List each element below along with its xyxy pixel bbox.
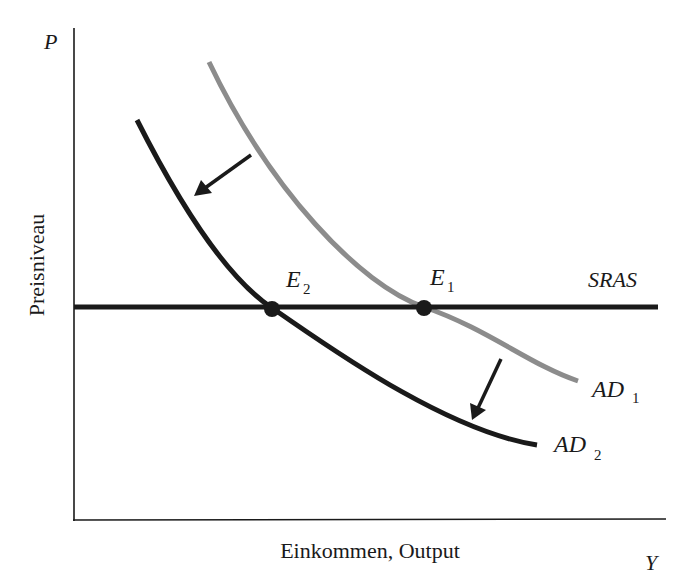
x-axis-label: Einkommen, Output <box>280 538 460 563</box>
e1-point <box>416 300 432 316</box>
x-axis-symbol: Y <box>645 550 660 575</box>
sras-label: SRAS <box>588 267 637 292</box>
ad-shift-diagram: P Preisniveau Y Einkommen, Output SRAS A… <box>0 0 697 586</box>
svg-text:AD: AD <box>552 431 586 457</box>
y-axis-symbol: P <box>43 29 57 54</box>
e1-label: E 1 <box>429 264 455 295</box>
svg-text:2: 2 <box>303 281 311 297</box>
ad2-label: AD 2 <box>552 431 602 463</box>
e2-label: E 2 <box>285 266 311 297</box>
ad1-label: AD 1 <box>590 376 640 406</box>
svg-text:2: 2 <box>594 447 602 463</box>
svg-text:AD: AD <box>590 376 624 402</box>
ad2-curve <box>137 120 537 445</box>
e2-point <box>264 301 280 317</box>
y-axis-label: Preisniveau <box>24 214 49 317</box>
svg-text:1: 1 <box>447 279 455 295</box>
shift-arrow-lower <box>470 359 501 420</box>
svg-text:E: E <box>285 266 301 292</box>
svg-text:E: E <box>429 264 445 290</box>
ad1-curve <box>209 62 578 381</box>
svg-text:1: 1 <box>632 390 640 406</box>
x-axis <box>73 519 666 520</box>
shift-arrow-upper <box>194 155 251 196</box>
